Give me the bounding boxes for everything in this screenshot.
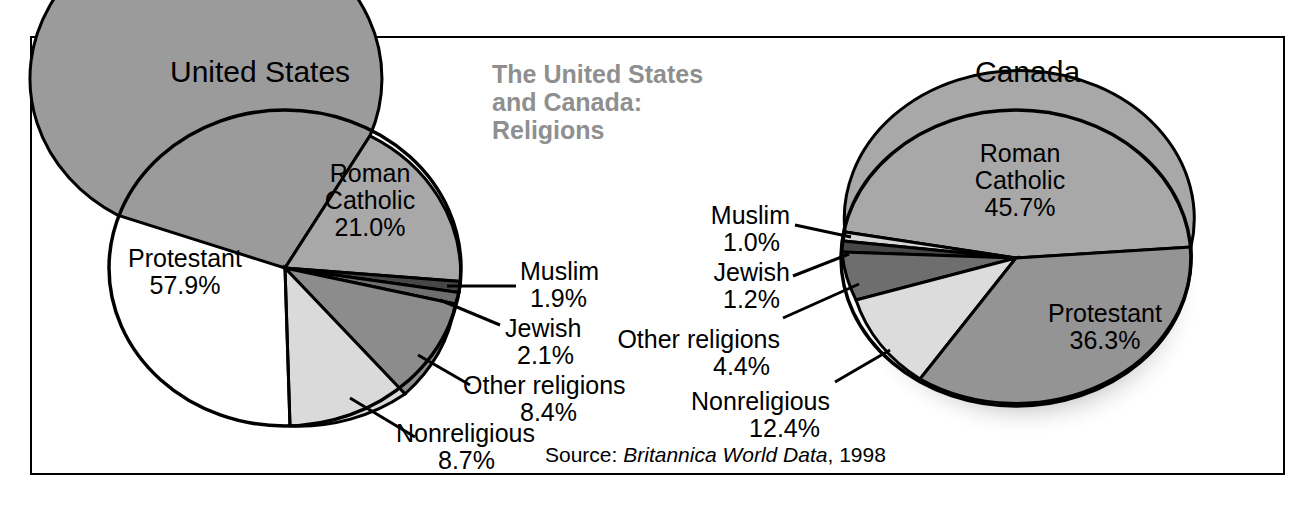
canada-value-roman-catholic: 45.7% — [940, 194, 1100, 221]
canada-label-muslim: Muslim — [620, 202, 790, 229]
canada-label-nonreligious: Nonreligious — [620, 388, 830, 415]
figure-title-line1: The United States — [492, 60, 703, 88]
us-value-protestant: 57.9% — [105, 272, 265, 299]
canada-value-protestant: 36.3% — [1020, 327, 1190, 354]
us-label-muslim: Muslim — [520, 258, 599, 285]
figure-title-line3: Religions — [492, 116, 605, 144]
canada-label-jewish: Jewish — [620, 259, 790, 286]
canada-label-other-religions: Other religions — [570, 326, 780, 353]
source-year: , 1998 — [827, 443, 885, 466]
source-prefix: Source: — [545, 443, 623, 466]
us-value-roman-catholic: 21.0% — [295, 214, 445, 241]
canada-value-jewish: 1.2% — [620, 286, 780, 313]
canada-pie — [841, 71, 1194, 406]
canada-label-roman-catholic-2: Catholic — [940, 167, 1100, 194]
source-title: Britannica World Data — [623, 443, 827, 466]
source-note: Source: Britannica World Data, 1998 — [545, 443, 886, 467]
canada-label-roman-catholic-1: Roman — [940, 140, 1100, 167]
us-value-jewish: 2.1% — [517, 342, 574, 369]
us-value-muslim: 1.9% — [530, 285, 587, 312]
us-label-nonreligious: Nonreligious — [396, 420, 535, 447]
canada-chart-heading: Canada — [975, 56, 1080, 88]
us-value-nonreligious: 8.7% — [438, 447, 495, 474]
us-label-roman-catholic-2: Catholic — [295, 187, 445, 214]
us-label-protestant: Protestant — [105, 245, 265, 272]
us-label-roman-catholic-1: Roman — [295, 160, 445, 187]
canada-label-protestant: Protestant — [1020, 300, 1190, 327]
canada-value-other-religions: 4.4% — [570, 353, 770, 380]
figure-canvas: United States Canada The United States a… — [0, 0, 1303, 511]
canada-value-muslim: 1.0% — [620, 229, 780, 256]
us-chart-heading: United States — [170, 56, 350, 88]
figure-title-line2: and Canada: — [492, 88, 642, 116]
canada-value-nonreligious: 12.4% — [620, 415, 820, 442]
